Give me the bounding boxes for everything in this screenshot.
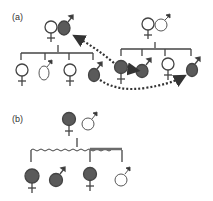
- arrow-to-left-father: [78, 38, 114, 63]
- pedigree-diagram: [0, 0, 213, 201]
- female-child-affected: [25, 169, 39, 193]
- arrow-bottom-loop: [100, 78, 181, 89]
- male-child-affected: [50, 167, 66, 187]
- female-symbol-affected: [63, 113, 76, 137]
- male-symbol-affected: [58, 15, 73, 35]
- pedigree-figure: (a) (b): [0, 0, 213, 201]
- female-child-affected: [115, 61, 128, 85]
- female-child-unaffected: [64, 64, 76, 86]
- family-a-left: [16, 15, 102, 86]
- male-child-affected: [187, 57, 201, 77]
- family-b: [25, 112, 130, 193]
- male-child-unaffected: [115, 167, 130, 186]
- female-symbol-unaffected: [142, 18, 154, 39]
- female-child-affected: [84, 168, 97, 192]
- family-a-right: [115, 14, 201, 84]
- female-symbol-unaffected: [45, 21, 57, 42]
- female-child-unaffected: [162, 58, 174, 80]
- male-child-affected: [89, 62, 103, 82]
- male-symbol-unaffected: [155, 14, 170, 31]
- male-child-affected: [136, 58, 151, 78]
- male-symbol-unaffected: [82, 112, 97, 130]
- male-child-unaffected: [39, 60, 52, 80]
- female-child-unaffected: [16, 64, 28, 86]
- arrow-between-children: [128, 69, 134, 70]
